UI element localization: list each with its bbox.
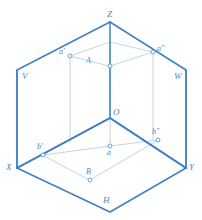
label-point-a-double-prime: a″ bbox=[157, 45, 164, 53]
label-point-B: B bbox=[86, 168, 91, 176]
label-point-a: a bbox=[107, 149, 111, 157]
label-plane-H: H bbox=[103, 196, 110, 205]
marker-b-double-prime bbox=[156, 138, 160, 142]
label-origin-O: O bbox=[113, 108, 120, 117]
axis-Y bbox=[110, 118, 186, 168]
marker-a-double-prime bbox=[151, 50, 155, 54]
lower-parallelogram bbox=[43, 140, 158, 180]
plane-H-outline bbox=[17, 168, 186, 212]
marker-a-prime bbox=[68, 54, 72, 58]
label-axis-X: X bbox=[6, 163, 12, 172]
label-point-b-prime: b' bbox=[37, 143, 43, 151]
construction-lines bbox=[43, 42, 158, 180]
label-plane-V: V bbox=[22, 72, 28, 81]
label-axis-Z: Z bbox=[107, 10, 112, 19]
axis-X bbox=[17, 118, 110, 168]
label-axis-Y: Y bbox=[189, 163, 194, 172]
label-point-b-double-prime: b″ bbox=[152, 128, 159, 136]
diagram-canvas bbox=[0, 0, 202, 220]
label-plane-W: W bbox=[174, 72, 182, 81]
projection-diagram: Z X Y O V W H a' a″ A a b' b″ B bbox=[0, 0, 202, 220]
marker-A bbox=[108, 64, 112, 68]
marker-B bbox=[88, 178, 92, 182]
label-point-A: A bbox=[86, 57, 91, 65]
upper-parallelogram bbox=[70, 42, 153, 66]
marker-b-prime bbox=[41, 153, 45, 157]
point-markers bbox=[41, 50, 160, 182]
label-point-a-prime: a' bbox=[59, 48, 65, 56]
plane-V-outline bbox=[17, 22, 110, 168]
